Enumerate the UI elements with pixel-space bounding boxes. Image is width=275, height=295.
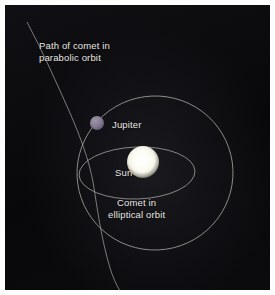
label-sun: Sun xyxy=(115,167,132,179)
comet-orbit-figure: Path of comet in parabolic orbit Jupiter… xyxy=(0,0,275,295)
label-parabolic-orbit: Path of comet in parabolic orbit xyxy=(39,40,110,64)
jupiter-body xyxy=(90,116,104,130)
label-elliptical-orbit: Comet in elliptical orbit xyxy=(108,197,165,221)
label-jupiter: Jupiter xyxy=(112,119,142,131)
sky-panel: Path of comet in parabolic orbit Jupiter… xyxy=(5,5,270,290)
sun-core xyxy=(133,152,154,173)
comet-elliptical-orbit-path xyxy=(67,86,243,260)
